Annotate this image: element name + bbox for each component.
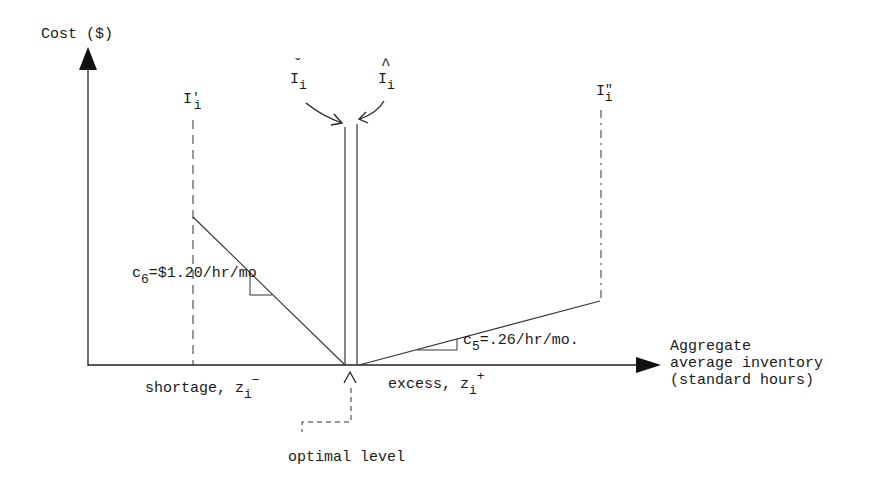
y-axis-arrowhead	[79, 47, 97, 70]
optimal-pointer-leader	[302, 388, 351, 432]
diagram-canvas	[0, 0, 895, 489]
i-hat-arrow	[360, 101, 384, 119]
c5-slope-label: c5=.26/hr/mo.	[463, 333, 579, 348]
x-axis-arrowhead	[636, 357, 661, 373]
x-axis-label-line-2: average inventory	[670, 355, 823, 372]
x-axis-label-line-1: Aggregate	[670, 338, 823, 355]
x-axis-label: Aggregate average inventory (standard ho…	[670, 338, 823, 389]
shortage-cost-line	[193, 217, 345, 365]
optimal-pointer-caret	[344, 372, 356, 383]
i-check-label: ˇ Ii	[290, 72, 307, 87]
i-prime-label: I'i	[183, 92, 202, 107]
optimal-level-label: optimal level	[288, 450, 405, 465]
i-hat-label: ^ Ii	[378, 72, 395, 87]
i-check-arrow	[306, 103, 342, 123]
x-axis-label-line-3: (standard hours)	[670, 372, 823, 389]
y-axis-label: Cost ($)	[41, 27, 113, 42]
c6-slope-label: c6=$1.20/hr/mo	[132, 266, 257, 281]
excess-label: excess, zi+	[388, 377, 485, 392]
i-double-prime-label: I"i	[596, 84, 613, 99]
shortage-label: shortage, zi−	[145, 381, 260, 396]
